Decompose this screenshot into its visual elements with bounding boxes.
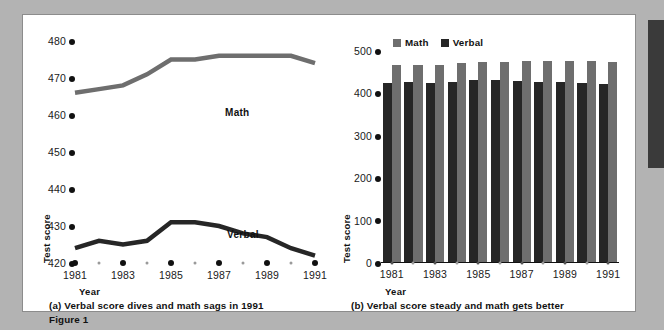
y-tick-label: 450 — [48, 146, 66, 158]
legend-label: Math — [405, 37, 429, 48]
y-tick-420: 420 — [48, 257, 75, 269]
y-tick-label: 0 — [366, 257, 372, 269]
x-tick-label-1981: 1981 — [380, 268, 404, 280]
legend-item-verbal[interactable]: Verbal — [441, 37, 484, 48]
bar-math-1983[interactable] — [435, 65, 444, 263]
panel-b-bar-chart: MathVerbal Test score 0100200300400500 1… — [333, 15, 637, 313]
x-axis-title-b: Year — [385, 286, 406, 297]
bar-verbal-1990[interactable] — [577, 83, 586, 263]
y-tick-500: 500 — [354, 45, 381, 57]
right-edge-strip — [648, 20, 664, 168]
x-tick-dot-icon-1990 — [585, 262, 588, 265]
line-series-svg-a — [75, 41, 315, 263]
y-tick-200: 200 — [354, 172, 381, 184]
bar-verbal-1985[interactable] — [469, 80, 478, 263]
y-tick-470: 470 — [48, 72, 75, 84]
plot-area-b: 0100200300400500 19811983198519871989199… — [381, 51, 619, 263]
figure-label: Figure 1 — [49, 314, 88, 325]
legend-b: MathVerbal — [393, 37, 483, 48]
legend-swatch-icon — [441, 39, 449, 47]
y-tick-label: 470 — [48, 72, 66, 84]
y-tick-label: 430 — [48, 220, 66, 232]
plot-area-a: 420430440450460470480 198119831985198719… — [75, 41, 315, 263]
bar-verbal-1987[interactable] — [513, 81, 522, 263]
x-tick-label-1991: 1991 — [596, 268, 620, 280]
x-tick-dot-icon-1988 — [542, 262, 545, 265]
y-tick-label: 420 — [48, 257, 66, 269]
panel-a-line-chart: Test score 420430440450460470480 1981198… — [23, 15, 333, 313]
series-label-math: Math — [225, 107, 250, 118]
bar-math-1987[interactable] — [522, 61, 531, 263]
bar-math-1989[interactable] — [565, 61, 574, 263]
x-tick-dot-icon-1982 — [412, 262, 415, 265]
x-tick-label-1989: 1989 — [255, 269, 279, 281]
bar-verbal-1988[interactable] — [534, 82, 543, 263]
x-tick-label-1983: 1983 — [111, 269, 135, 281]
legend-label: Verbal — [453, 37, 484, 48]
legend-swatch-icon — [393, 39, 401, 47]
y-tick-300: 300 — [354, 130, 381, 142]
x-tick-dot-icon-1989 — [563, 262, 566, 265]
bar-math-1985[interactable] — [478, 62, 487, 263]
x-tick-dot-icon-1983 — [434, 262, 437, 265]
y-axis-title-b: Test score — [341, 214, 352, 263]
bar-verbal-1989[interactable] — [556, 82, 565, 263]
bar-math-1982[interactable] — [413, 65, 422, 263]
x-tick-label-1991: 1991 — [303, 269, 327, 281]
bar-verbal-1982[interactable] — [404, 82, 413, 263]
bar-verbal-1986[interactable] — [491, 80, 500, 263]
y-tick-label: 100 — [354, 215, 372, 227]
series-label-verbal: Verbal — [227, 229, 259, 240]
x-tick-dot-icon-1987 — [520, 262, 523, 265]
x-tick-label-1981: 1981 — [63, 269, 87, 281]
y-tick-label: 480 — [48, 35, 66, 47]
y-tick-100: 100 — [354, 215, 381, 227]
bar-math-1991[interactable] — [608, 62, 617, 263]
x-tick-label-1987: 1987 — [510, 268, 534, 280]
x-tick-dot-icon-1991 — [607, 262, 610, 265]
x-axis-title-a: Year — [79, 286, 100, 297]
bar-math-1981[interactable] — [392, 65, 401, 263]
bar-verbal-1981[interactable] — [383, 83, 392, 263]
y-tick-label: 400 — [354, 87, 372, 99]
x-tick-dot-icon-1984 — [455, 262, 458, 265]
y-tick-label: 500 — [354, 45, 372, 57]
y-tick-400: 400 — [354, 87, 381, 99]
x-tick-dot-icon-1986 — [499, 262, 502, 265]
y-tick-480: 480 — [48, 35, 75, 47]
x-tick-label-1985: 1985 — [159, 269, 183, 281]
bar-math-1988[interactable] — [543, 61, 552, 263]
x-tick-label-1989: 1989 — [553, 268, 577, 280]
x-tick-dot-icon-1985 — [477, 262, 480, 265]
y-tick-label: 460 — [48, 109, 66, 121]
y-tick-label: 300 — [354, 130, 372, 142]
caption-b: (b) Verbal score steady and math gets be… — [351, 300, 564, 311]
bar-verbal-1983[interactable] — [426, 83, 435, 263]
y-tick-450: 450 — [48, 146, 75, 158]
figure-frame: Test score 420430440450460470480 1981198… — [22, 14, 636, 312]
bar-series-b — [381, 51, 619, 263]
bar-math-1990[interactable] — [587, 61, 596, 263]
line-verbal — [75, 222, 315, 255]
x-tick-label-1985: 1985 — [466, 268, 490, 280]
x-tick-dot-icon-1981 — [390, 262, 393, 265]
bar-math-1984[interactable] — [457, 63, 466, 263]
x-tick-label-1983: 1983 — [423, 268, 447, 280]
y-tick-440: 440 — [48, 183, 75, 195]
caption-a: (a) Verbal score dives and math sags in … — [49, 300, 264, 311]
bar-math-1986[interactable] — [500, 62, 509, 263]
line-math — [75, 56, 315, 93]
y-tick-430: 430 — [48, 220, 75, 232]
y-tick-460: 460 — [48, 109, 75, 121]
legend-item-math[interactable]: Math — [393, 37, 429, 48]
y-tick-label: 440 — [48, 183, 66, 195]
y-tick-label: 200 — [354, 172, 372, 184]
x-tick-label-1987: 1987 — [207, 269, 231, 281]
bar-verbal-1991[interactable] — [599, 84, 608, 263]
bar-verbal-1984[interactable] — [448, 82, 457, 263]
